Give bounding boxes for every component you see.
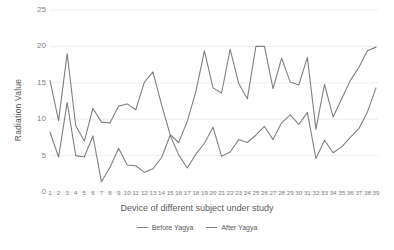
y-tick-label: 10 <box>24 115 46 123</box>
x-tick-label: 9 <box>117 190 120 196</box>
x-axis-tick-labels: 1234567891011121314151617181920212223242… <box>50 190 378 202</box>
x-tick-label: 26 <box>261 190 268 196</box>
y-tick-label: 20 <box>24 42 46 50</box>
x-tick-label: 27 <box>270 190 277 196</box>
x-tick-label: 29 <box>287 190 294 196</box>
x-tick-label: 7 <box>100 190 103 196</box>
legend-item-before-yagya[interactable]: Before Yagya <box>137 224 194 231</box>
x-tick-label: 31 <box>304 190 311 196</box>
legend-label: Before Yagya <box>152 224 194 231</box>
radiation-value-line-chart: Radiation Value 0510152025 1234567891011… <box>0 0 394 250</box>
x-tick-label: 10 <box>124 190 131 196</box>
x-tick-label: 6 <box>91 190 94 196</box>
x-tick-label: 23 <box>235 190 242 196</box>
x-tick-label: 32 <box>312 190 319 196</box>
y-tick-label: 25 <box>24 6 46 14</box>
x-tick-label: 28 <box>278 190 285 196</box>
x-tick-label: 33 <box>321 190 328 196</box>
x-tick-label: 39 <box>373 190 380 196</box>
x-tick-label: 1 <box>48 190 51 196</box>
x-tick-label: 16 <box>175 190 182 196</box>
x-axis-title: Device of different subject under study <box>0 203 394 213</box>
x-tick-label: 21 <box>218 190 225 196</box>
plot-svg <box>50 10 378 192</box>
x-tick-label: 12 <box>141 190 148 196</box>
x-tick-label: 17 <box>184 190 191 196</box>
x-tick-label: 36 <box>347 190 354 196</box>
x-tick-label: 35 <box>338 190 345 196</box>
series-line-before-yagya <box>50 88 376 182</box>
x-tick-label: 2 <box>57 190 60 196</box>
x-tick-label: 38 <box>364 190 371 196</box>
series-lines <box>50 46 376 181</box>
y-tick-label: 0 <box>24 188 46 196</box>
x-tick-label: 14 <box>158 190 165 196</box>
x-tick-label: 30 <box>295 190 302 196</box>
legend-item-after-yagya[interactable]: After Yagya <box>206 224 257 231</box>
x-tick-label: 24 <box>244 190 251 196</box>
x-tick-label: 8 <box>108 190 111 196</box>
x-tick-label: 25 <box>252 190 259 196</box>
legend-line-icon <box>137 227 148 228</box>
x-tick-label: 13 <box>149 190 156 196</box>
y-tick-label: 5 <box>24 152 46 160</box>
x-tick-label: 15 <box>167 190 174 196</box>
x-tick-label: 3 <box>65 190 68 196</box>
x-tick-label: 19 <box>201 190 208 196</box>
x-tick-label: 37 <box>355 190 362 196</box>
x-tick-label: 18 <box>192 190 199 196</box>
x-tick-label: 34 <box>330 190 337 196</box>
y-tick-label: 15 <box>24 79 46 87</box>
x-tick-label: 11 <box>133 190 139 196</box>
x-tick-label: 20 <box>210 190 217 196</box>
x-tick-label: 5 <box>83 190 86 196</box>
x-tick-label: 4 <box>74 190 77 196</box>
legend-line-icon <box>206 227 217 228</box>
x-tick-label: 22 <box>227 190 234 196</box>
legend-label: After Yagya <box>221 224 257 231</box>
plot-area <box>50 10 378 192</box>
chart-legend: Before YagyaAfter Yagya <box>0 224 394 231</box>
